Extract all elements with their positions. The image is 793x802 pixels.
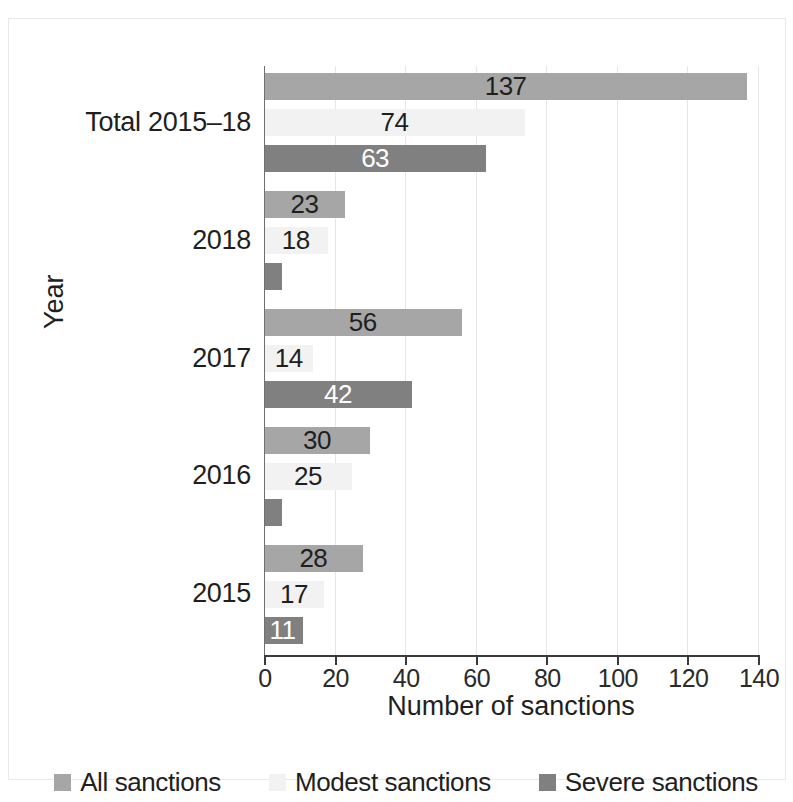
legend-swatch-icon [539, 774, 556, 791]
x-axis-tick-label: 100 [588, 664, 648, 693]
bar-value-label: 137 [485, 73, 527, 100]
legend-swatch-icon [54, 774, 71, 791]
legend-label: All sanctions [80, 767, 221, 798]
bar-value-label: 30 [303, 427, 331, 454]
legend-swatch-icon [269, 774, 286, 791]
legend-item[interactable]: Modest sanctions [269, 767, 491, 798]
plot-area: 137746323185614423025281711 [264, 66, 758, 655]
bar-severe-1[interactable] [264, 263, 282, 290]
bar-value-label: 28 [299, 545, 327, 572]
x-axis-tick-label: 120 [658, 664, 718, 693]
bar-value-label: 14 [275, 345, 303, 372]
x-axis-line [264, 655, 759, 657]
legend-item[interactable]: Severe sanctions [539, 767, 758, 798]
gridline [687, 66, 688, 655]
x-axis-tick-label: 60 [447, 664, 507, 693]
legend-label: Modest sanctions [295, 767, 491, 798]
x-axis-tick-label: 0 [235, 664, 295, 693]
bar-value-label: 63 [361, 145, 389, 172]
legend-item[interactable]: All sanctions [54, 767, 221, 798]
bar-value-label: 18 [282, 227, 310, 254]
bar-value-label: 56 [349, 309, 377, 336]
chart-frame: Year Total 2015–182018201720162015 13774… [8, 18, 786, 780]
x-axis-tick-label: 140 [729, 664, 789, 693]
x-axis-tick-label: 20 [306, 664, 366, 693]
legend-label: Severe sanctions [565, 767, 758, 798]
y-axis-tick-label: 2015 [16, 578, 251, 609]
y-axis-tick-label: 2016 [16, 460, 251, 491]
y-axis-tick-label: Total 2015–18 [16, 107, 251, 138]
gridline [617, 66, 618, 655]
bar-value-label: 23 [291, 191, 319, 218]
bar-value-label: 17 [280, 581, 308, 608]
gridline [758, 66, 759, 655]
bar-severe-3[interactable] [264, 499, 282, 526]
x-axis-tick-label: 80 [517, 664, 577, 693]
y-axis-line [264, 66, 265, 655]
x-axis-title: Number of sanctions [264, 691, 758, 722]
bar-value-label: 74 [381, 109, 409, 136]
gridline [546, 66, 547, 655]
bar-value-label: 42 [324, 381, 352, 408]
y-axis-tick-label: 2018 [16, 225, 251, 256]
y-axis-tick-labels: Total 2015–182018201720162015 [9, 66, 251, 655]
y-axis-tick-label: 2017 [16, 343, 251, 374]
bar-value-label: 25 [294, 463, 322, 490]
bar-value-label: 11 [269, 617, 295, 644]
x-axis-tick-label: 40 [376, 664, 436, 693]
chart-legend: All sanctionsModest sanctionsSevere sanc… [17, 767, 793, 798]
